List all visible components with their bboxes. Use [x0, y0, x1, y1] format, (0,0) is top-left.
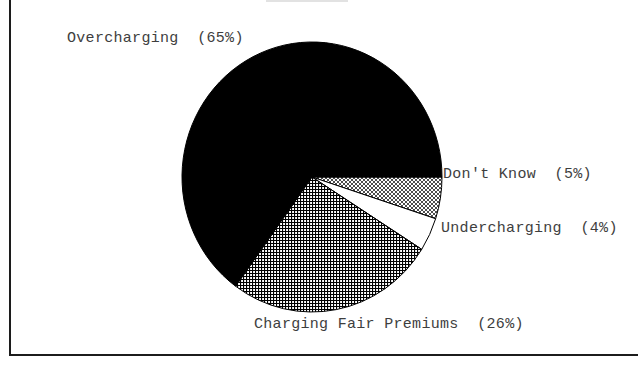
slice-label-charging-fair-premiums: Charging Fair Premiums (26%) [254, 315, 524, 334]
slice-label-undercharging: Undercharging (4%) [441, 219, 618, 238]
chart-canvas: Overcharging (65%) Don't Know (5%) Under… [0, 0, 638, 366]
slice-label-overcharging: Overcharging (65%) [67, 29, 244, 48]
slice-label-dont-know: Don't Know (5%) [443, 165, 592, 184]
